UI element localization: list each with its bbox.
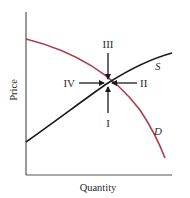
supply-curve (26, 53, 172, 142)
supply-label: S (155, 60, 161, 72)
demand-curve (26, 39, 165, 158)
y-axis-label: Price (8, 79, 19, 101)
supply-demand-diagram: III I IV II S D Quantity Price (0, 0, 190, 198)
demand-label: D (153, 125, 162, 137)
label-II: II (140, 77, 148, 89)
label-IV: IV (63, 77, 75, 89)
x-axis-label: Quantity (80, 182, 117, 193)
label-I: I (106, 117, 110, 129)
label-III: III (103, 38, 114, 50)
